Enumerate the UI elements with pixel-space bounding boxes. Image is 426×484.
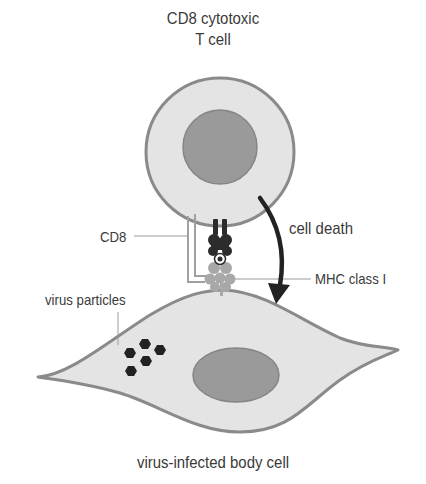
peptide-core — [218, 257, 223, 262]
title-line-1: CD8 cytotoxic — [26, 10, 401, 27]
body-cell-caption: virus-infected body cell — [26, 454, 401, 471]
t-cell — [146, 78, 294, 226]
virus-particles-label: virus particles — [45, 292, 126, 307]
t-cell-nucleus — [183, 110, 257, 184]
diagram-canvas — [0, 0, 426, 484]
body-cell-nucleus — [193, 348, 279, 402]
body-cell — [38, 290, 398, 432]
cell-death-arrow-icon — [260, 198, 290, 304]
title-line-2: T cell — [26, 31, 401, 48]
cd8-label: CD8 — [100, 229, 126, 244]
mhc-class-i-label: MHC class I — [315, 271, 386, 286]
cell-death-label: cell death — [289, 220, 353, 237]
